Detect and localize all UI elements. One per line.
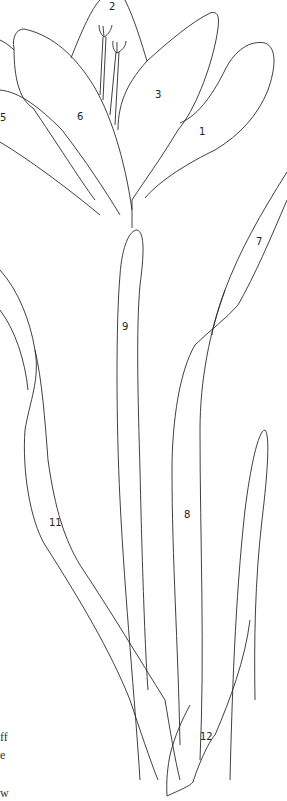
leaf-8	[172, 290, 225, 760]
stamen-2-tip	[113, 41, 126, 53]
petal-5	[0, 40, 120, 215]
label-2: 2	[109, 1, 115, 12]
caption-fragment-3: w	[0, 787, 9, 799]
label-6: 6	[77, 111, 83, 122]
leaf-7	[195, 172, 287, 345]
lily-line-art: 2 3 1 5 6 7 9 8 11 12	[0, 0, 287, 801]
label-1: 1	[199, 126, 205, 137]
caption-fragment-1: ff	[0, 731, 8, 743]
label-7: 7	[256, 236, 262, 247]
label-12: 12	[200, 731, 213, 742]
leaf-11	[0, 270, 180, 780]
leaf-9	[117, 230, 148, 780]
label-9: 9	[122, 321, 128, 332]
petal-6	[13, 29, 132, 210]
label-8: 8	[184, 509, 190, 520]
label-5: 5	[0, 112, 6, 123]
label-3: 3	[155, 89, 161, 100]
label-11: 11	[49, 517, 62, 528]
stamen-2	[110, 52, 119, 125]
caption-fragment-2: e	[0, 749, 5, 761]
petal-3	[118, 12, 218, 200]
stamen-1	[100, 37, 106, 100]
stamen-1-tip	[99, 25, 112, 37]
leaf-right	[230, 430, 268, 780]
